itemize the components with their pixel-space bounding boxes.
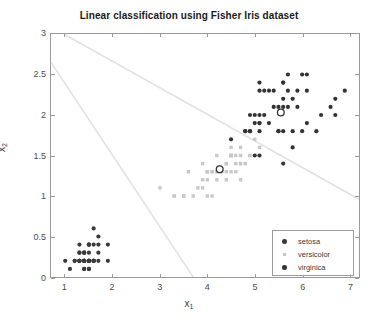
data-point xyxy=(206,170,209,173)
x-tick-label: 1 xyxy=(62,282,67,292)
data-point xyxy=(229,170,232,173)
x-tick-mark-top xyxy=(64,33,65,37)
data-point xyxy=(96,251,100,255)
data-point xyxy=(253,113,257,117)
data-point xyxy=(276,129,280,133)
x-tick-mark xyxy=(255,274,256,278)
boundary-line-1 xyxy=(64,34,359,199)
data-point xyxy=(300,72,304,76)
data-point xyxy=(239,178,242,181)
data-point xyxy=(225,170,228,173)
data-point xyxy=(87,243,91,247)
data-point xyxy=(63,259,67,263)
y-tick-mark xyxy=(51,115,55,116)
x-tick-mark xyxy=(207,274,208,278)
legend-item-versicolor[interactable]: versicolor xyxy=(273,248,353,261)
data-point xyxy=(281,97,285,101)
data-point xyxy=(319,113,323,117)
data-point xyxy=(257,81,261,85)
data-point xyxy=(291,129,295,133)
series-virginica xyxy=(229,72,347,165)
data-point xyxy=(210,170,213,173)
x-tick-mark-top xyxy=(112,33,113,37)
data-point xyxy=(158,186,161,189)
legend-label: setosa xyxy=(298,237,320,246)
data-point xyxy=(77,259,81,263)
data-point xyxy=(267,89,271,93)
data-point xyxy=(182,194,185,197)
data-point xyxy=(206,194,209,197)
data-point xyxy=(96,259,100,263)
legend-item-virginica[interactable]: virginica xyxy=(273,261,353,274)
data-point xyxy=(106,243,110,247)
legend[interactable]: setosaversicolorvirginica xyxy=(272,230,354,276)
data-point xyxy=(257,153,261,157)
data-point xyxy=(229,137,233,141)
data-point xyxy=(201,186,204,189)
y-tick-mark-right xyxy=(355,156,359,157)
data-point xyxy=(291,145,295,149)
legend-marker-icon xyxy=(280,237,289,246)
figure-canvas: Linear classification using Fisher Iris … xyxy=(0,0,378,325)
data-point xyxy=(291,97,295,101)
data-point xyxy=(225,162,228,165)
data-point xyxy=(253,121,257,125)
data-point xyxy=(206,178,209,181)
data-point xyxy=(286,89,290,93)
legend-marker-icon xyxy=(280,250,289,259)
x-tick-label: 4 xyxy=(205,282,210,292)
y-tick-label: 3 xyxy=(22,28,46,38)
data-point xyxy=(68,267,72,271)
y-tick-label: 0 xyxy=(22,273,46,283)
data-point xyxy=(267,121,271,125)
data-point xyxy=(201,178,204,181)
data-point xyxy=(92,259,96,263)
data-point xyxy=(229,146,232,149)
data-point xyxy=(253,153,257,157)
data-point xyxy=(173,194,176,197)
legend-item-setosa[interactable]: setosa xyxy=(273,235,353,248)
x-tick-label: 3 xyxy=(157,282,162,292)
data-point xyxy=(295,89,299,93)
data-point xyxy=(343,89,347,93)
data-point xyxy=(82,251,86,255)
x-tick-mark-top xyxy=(160,33,161,37)
versicolor-centroid xyxy=(216,166,223,173)
data-point xyxy=(257,89,261,93)
y-tick-label: 0.5 xyxy=(22,232,46,242)
y-tick-mark-right xyxy=(355,115,359,116)
x-tick-label: 5 xyxy=(253,282,258,292)
x-axis-label: x1 xyxy=(0,298,378,310)
x-tick-mark-top xyxy=(303,33,304,37)
data-point xyxy=(215,154,218,157)
data-point xyxy=(234,154,237,157)
data-point xyxy=(257,121,261,125)
data-point xyxy=(82,267,86,271)
data-point xyxy=(106,259,110,263)
data-point xyxy=(92,243,96,247)
y-tick-mark-right xyxy=(355,237,359,238)
data-point xyxy=(234,170,237,173)
data-point xyxy=(225,178,228,181)
data-point xyxy=(87,267,91,271)
data-point xyxy=(87,251,91,255)
data-point xyxy=(253,138,256,141)
data-point xyxy=(239,162,242,165)
data-point xyxy=(87,259,91,263)
y-tick-label: 2.5 xyxy=(22,69,46,79)
data-point xyxy=(210,194,213,197)
legend-marker-dot xyxy=(283,253,287,257)
y-tick-label: 2 xyxy=(22,110,46,120)
x-tick-label: 7 xyxy=(348,282,353,292)
data-point xyxy=(333,97,337,101)
data-point xyxy=(239,154,242,157)
data-point xyxy=(257,113,261,117)
data-point xyxy=(257,129,261,133)
data-point xyxy=(305,89,309,93)
data-point xyxy=(262,113,266,117)
data-point xyxy=(286,72,290,76)
y-tick-mark xyxy=(51,74,55,75)
data-point xyxy=(243,129,247,133)
data-point xyxy=(272,105,276,109)
series-versicolor xyxy=(158,130,261,198)
